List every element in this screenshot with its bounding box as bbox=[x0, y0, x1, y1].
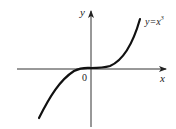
cubic-graph: y x 0 y=x3 bbox=[0, 0, 176, 129]
function-label: y=x3 bbox=[144, 15, 164, 27]
origin-label: 0 bbox=[82, 72, 87, 83]
x-axis-label: x bbox=[159, 72, 165, 84]
y-axis-label: y bbox=[79, 6, 85, 18]
